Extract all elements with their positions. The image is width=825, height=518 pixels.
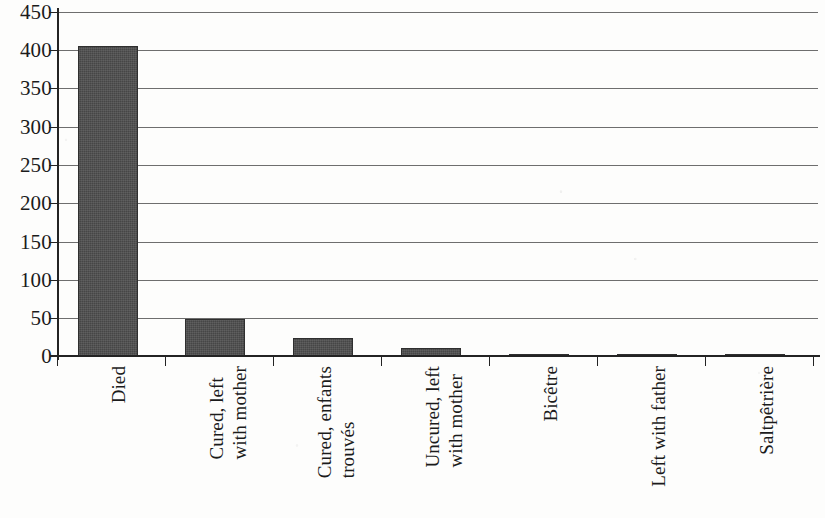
x-label-bicetre: Bicêtre: [540, 366, 620, 422]
bar-cured-enfants-trouves: [293, 338, 353, 356]
x-label-saltpetriere: Saltpêtrière: [756, 366, 825, 455]
y-tick-label-450: 450: [0, 2, 52, 23]
y-tick-label-400: 400: [0, 40, 52, 61]
x-tick-mark-3: [381, 357, 382, 366]
y-tick-label-250: 250: [0, 155, 52, 176]
y-axis-tick-labels: 450 400 350 300 250 200 150 100 50 0: [0, 0, 52, 370]
gridline-300: [57, 127, 818, 128]
y-tick-label-300: 300: [0, 117, 52, 138]
gridline-400: [57, 50, 818, 51]
y-tick-label-150: 150: [0, 232, 52, 253]
x-label-bicetre-line-1: Bicêtre: [540, 366, 562, 422]
y-tick-label-350: 350: [0, 78, 52, 99]
x-label-saltpetriere-line-1: Saltpêtrière: [756, 366, 778, 455]
y-tick-label-50: 50: [0, 308, 52, 329]
y-axis-line: [57, 8, 59, 360]
x-label-died-line-1: Died: [108, 366, 130, 403]
x-axis-category-labels: Died Cured, left with mother Cured, enfa…: [0, 366, 825, 518]
x-label-uncured-left-with-mother-line-1: Uncured, left: [421, 366, 444, 468]
x-tick-mark-7: [813, 357, 814, 366]
x-label-cured-enfants-trouves-line-2: trouvés: [336, 366, 359, 478]
y-tick-label-100: 100: [0, 270, 52, 291]
x-tick-mark-0: [57, 357, 58, 366]
bar-died: [78, 46, 138, 356]
gridline-450: [57, 12, 818, 13]
plot-area: [57, 12, 818, 356]
x-tick-mark-4: [489, 357, 490, 366]
gridline-350: [57, 88, 818, 89]
gridline-50: [57, 318, 818, 319]
x-label-died: Died: [108, 366, 218, 403]
gridline-200: [57, 203, 818, 204]
y-tick-label-200: 200: [0, 193, 52, 214]
y-tick-label-0: 0: [0, 346, 52, 367]
bar-cured-left-with-mother: [185, 319, 245, 356]
x-label-left-with-father-line-1: Left with father: [648, 366, 670, 487]
x-label-cured-left-with-mother-line-2: with mother: [228, 366, 251, 459]
gridline-250: [57, 165, 818, 166]
gridline-150: [57, 242, 818, 243]
x-label-cured-enfants-trouves-line-1: Cured, enfants: [313, 366, 336, 478]
gridline-100: [57, 280, 818, 281]
x-tick-mark-1: [165, 357, 166, 366]
x-tick-mark-2: [273, 357, 274, 366]
x-label-cured-left-with-mother-line-1: Cured, left: [205, 366, 228, 459]
x-tick-mark-6: [705, 357, 706, 366]
x-tick-mark-5: [597, 357, 598, 366]
x-label-uncured-left-with-mother-line-2: with mother: [444, 366, 467, 468]
bar-chart-figure: 450 400 350 300 250 200 150 100 50 0: [0, 0, 825, 518]
